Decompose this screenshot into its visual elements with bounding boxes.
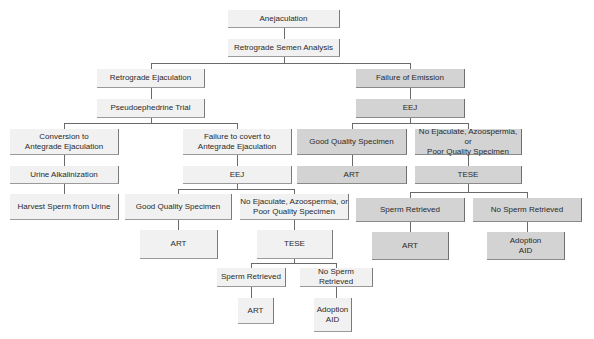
connector (294, 220, 295, 230)
node-no-sperm-retrieved-right: No Sperm Retrieved (473, 198, 582, 222)
node-no-sperm-retrieved-left: No Sperm Retrieved (300, 268, 373, 287)
node-retrograde-semen-analysis: Retrograde Semen Analysis (228, 39, 340, 57)
node-eej-left: EEJ (183, 166, 292, 184)
connector (151, 63, 411, 64)
node-art-left-1: ART (140, 230, 218, 259)
node-tese-right: TESE (415, 166, 522, 184)
connector (151, 88, 152, 99)
connector (251, 287, 252, 298)
node-no-ejaculate-left: No Ejaculate, Azoospermia, or Poor Quali… (240, 194, 349, 220)
node-anejaculation: Anejaculation (228, 10, 340, 28)
connector (64, 123, 238, 124)
connector (64, 155, 65, 166)
node-adoption-aid-left: Adoption AID (314, 298, 352, 332)
connector (410, 88, 411, 99)
connector (178, 220, 179, 230)
node-eej-right: EEJ (356, 99, 465, 118)
node-art-left-2: ART (238, 298, 274, 324)
anejaculation-flowchart: Anejaculation Retrograde Semen Analysis … (0, 0, 594, 339)
node-harvest-sperm-urine: Harvest Sperm from Urine (10, 194, 119, 220)
connector (237, 155, 238, 166)
connector (468, 184, 469, 192)
node-no-ejaculate-right: No Ejaculate, Azoospermia, or Poor Quali… (415, 129, 522, 155)
node-sperm-retrieved-left: Sperm Retrieved (217, 268, 286, 287)
node-adoption-aid-right: Adoption AID (487, 232, 565, 260)
node-pseudoephedrine-trial: Pseudoephedrine Trial (97, 99, 205, 118)
connector (336, 287, 337, 298)
node-failure-to-convert: Failure to covert to Antegrade Ejaculati… (183, 129, 292, 155)
connector (178, 189, 295, 190)
connector (352, 155, 353, 166)
node-good-quality-right: Good Quality Specimen (297, 129, 407, 155)
node-good-quality-left: Good Quality Specimen (125, 194, 232, 220)
node-failure-of-emission: Failure of Emission (356, 69, 465, 88)
connector (468, 155, 469, 166)
node-art-right-1: ART (297, 166, 407, 184)
connector (527, 222, 528, 232)
connector (410, 222, 411, 232)
connector (284, 28, 285, 39)
node-art-right-2: ART (372, 232, 449, 260)
connector (251, 263, 337, 264)
node-conversion-antegrade: Conversion to Antegrade Ejaculation (10, 129, 119, 155)
node-urine-alkalinization: Urine Alkalinization (10, 166, 119, 184)
node-sperm-retrieved-right: Sperm Retrieved (356, 198, 465, 222)
node-retrograde-ejaculation: Retrograde Ejaculation (97, 69, 205, 88)
connector (410, 192, 528, 193)
connector (64, 184, 65, 194)
node-tese-left: TESE (257, 230, 333, 259)
connector (352, 123, 469, 124)
